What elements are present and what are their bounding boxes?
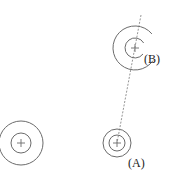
circle-left bbox=[0, 121, 43, 165]
dashed-axis-line bbox=[117, 15, 141, 143]
label-b: (B) bbox=[144, 53, 160, 65]
diagram-canvas bbox=[0, 0, 170, 173]
label-a: (A) bbox=[128, 157, 145, 169]
